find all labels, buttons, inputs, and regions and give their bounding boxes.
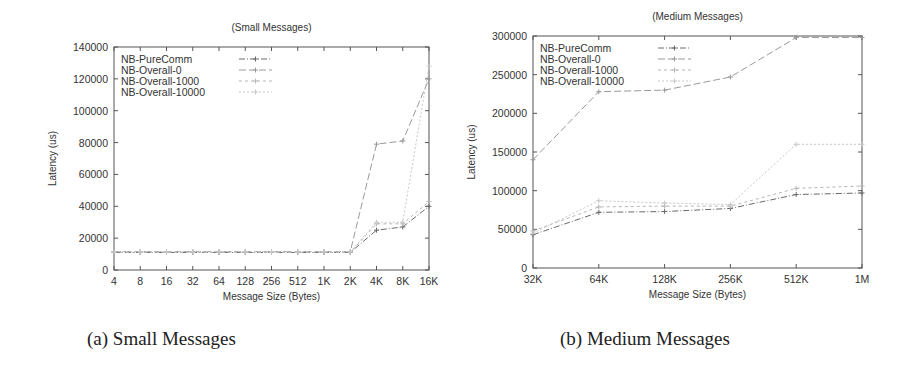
- legend-marker: [253, 79, 258, 84]
- chart-title: (Medium Messages): [652, 11, 743, 22]
- data-point-marker: [662, 88, 667, 93]
- legend-marker: [672, 79, 677, 84]
- y-tick-label: 60000: [79, 168, 108, 180]
- data-point-marker: [860, 142, 865, 147]
- legend-marker: [253, 90, 258, 95]
- y-tick-label: 100000: [492, 185, 527, 197]
- y-tick-label: 100000: [73, 105, 108, 117]
- series-line-nb-purecomm: [114, 206, 429, 252]
- legend-marker: [672, 57, 677, 62]
- x-tick-label: 512: [289, 275, 307, 287]
- chart-medium-messages: (Medium Messages)05000010000015000020000…: [450, 0, 907, 366]
- x-tick-label: 256K: [718, 273, 743, 285]
- legend-label: NB-Overall-10000: [121, 86, 205, 98]
- legend-marker: [672, 46, 677, 51]
- data-point-marker: [596, 198, 601, 203]
- data-point-marker: [860, 190, 865, 195]
- y-tick-label: 20000: [79, 232, 108, 244]
- x-axis-label: Message Size (Bytes): [649, 289, 746, 300]
- x-tick-label: 1M: [855, 273, 870, 285]
- legend-label: NB-Overall-10000: [540, 75, 624, 87]
- x-tick-label: 64: [213, 275, 225, 287]
- data-point-marker: [596, 210, 601, 215]
- data-point-marker: [427, 64, 432, 69]
- series-line-nb-overall-10000: [533, 144, 862, 233]
- y-tick-label: 200000: [492, 107, 527, 119]
- y-axis-label: Latency (us): [466, 124, 477, 179]
- data-point-marker: [190, 249, 195, 254]
- y-tick-label: 250000: [492, 69, 527, 81]
- series-line-nb-overall-0: [114, 79, 429, 252]
- x-tick-label: 32K: [524, 273, 543, 285]
- chart-medium-messages-plot: (Medium Messages)05000010000015000020000…: [450, 0, 907, 320]
- legend-marker: [253, 57, 258, 62]
- y-tick-label: 300000: [492, 30, 527, 42]
- x-tick-label: 64K: [589, 273, 608, 285]
- x-axis-label: Message Size (Bytes): [223, 291, 320, 302]
- data-point-marker: [322, 249, 327, 254]
- y-tick-label: 80000: [79, 137, 108, 149]
- data-point-marker: [728, 74, 733, 79]
- data-point-marker: [794, 186, 799, 191]
- data-point-marker: [164, 249, 169, 254]
- series-line-nb-purecomm: [533, 193, 862, 235]
- data-point-marker: [662, 201, 667, 206]
- x-tick-label: 2K: [344, 275, 357, 287]
- data-point-marker: [138, 249, 143, 254]
- x-tick-label: 512K: [784, 273, 809, 285]
- x-tick-label: 8: [137, 275, 143, 287]
- data-point-marker: [400, 138, 405, 143]
- data-point-marker: [794, 192, 799, 197]
- y-axis-label: Latency (us): [47, 131, 58, 186]
- caption-medium-messages: (b) Medium Messages: [560, 328, 730, 350]
- x-tick-label: 32: [187, 275, 199, 287]
- y-tick-label: 120000: [73, 73, 108, 85]
- series-line-nb-overall-1000: [114, 202, 429, 253]
- data-point-marker: [596, 204, 601, 209]
- legend-marker: [253, 68, 258, 73]
- data-point-marker: [427, 199, 432, 204]
- data-point-marker: [243, 249, 248, 254]
- x-tick-label: 16: [161, 275, 173, 287]
- data-point-marker: [348, 249, 353, 254]
- x-tick-label: 128K: [652, 273, 677, 285]
- x-tick-label: 8K: [396, 275, 409, 287]
- data-point-marker: [217, 249, 222, 254]
- x-tick-label: 1K: [318, 275, 331, 287]
- caption-small-messages: (a) Small Messages: [87, 328, 236, 350]
- chart-small-messages-plot: (Small Messages)020000400006000080000100…: [0, 0, 450, 320]
- x-tick-label: 4K: [370, 275, 383, 287]
- data-point-marker: [794, 142, 799, 147]
- series-line-nb-overall-1000: [533, 186, 862, 231]
- y-tick-label: 140000: [73, 41, 108, 53]
- chart-title: (Small Messages): [231, 22, 311, 33]
- data-point-marker: [860, 184, 865, 189]
- data-point-marker: [662, 209, 667, 214]
- data-point-marker: [295, 249, 300, 254]
- y-tick-label: 50000: [498, 223, 527, 235]
- y-tick-label: 150000: [492, 146, 527, 158]
- data-point-marker: [269, 249, 274, 254]
- x-tick-label: 4: [111, 275, 117, 287]
- data-point-marker: [112, 249, 117, 254]
- y-tick-label: 0: [102, 264, 108, 276]
- data-point-marker: [374, 142, 379, 147]
- y-tick-label: 40000: [79, 200, 108, 212]
- x-tick-label: 128: [236, 275, 254, 287]
- x-tick-label: 256: [263, 275, 281, 287]
- legend-marker: [672, 68, 677, 73]
- x-tick-label: 16K: [420, 275, 439, 287]
- chart-small-messages: (Small Messages)020000400006000080000100…: [0, 0, 450, 366]
- data-point-marker: [427, 204, 432, 209]
